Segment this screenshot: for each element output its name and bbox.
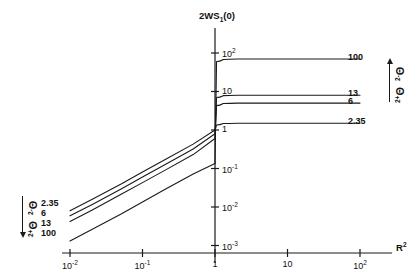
x-tick-label: 1 xyxy=(212,260,217,269)
annotation-left-arrow xyxy=(22,196,23,236)
annotation-right-arrow xyxy=(389,62,390,102)
curve-start-label-6: 6 xyxy=(41,209,46,218)
annotation-left-symbol-bottom: 2+Θ xyxy=(28,221,39,237)
curve-start-label-13: 13 xyxy=(41,219,51,228)
y-tick-label: 102 xyxy=(222,48,236,59)
figure-root: 10-210-111010210210110-110-210-32WS1(0)R… xyxy=(0,0,411,280)
curve-start-label-100: 100 xyxy=(41,229,56,238)
x-tick-label: 10-2 xyxy=(62,260,78,271)
curve-end-label-6: 6 xyxy=(348,97,353,106)
x-tick-label: 102 xyxy=(353,260,367,271)
curve-right-100 xyxy=(215,59,360,164)
annotation-left-arrowhead xyxy=(20,232,26,238)
curve-right-2.35 xyxy=(215,123,360,130)
curve-left-100 xyxy=(70,163,215,241)
curve-left-13 xyxy=(70,139,215,222)
annotation-right-arrowhead xyxy=(387,58,393,64)
y-tick-label: 10-2 xyxy=(222,202,238,213)
curve-right-13 xyxy=(215,95,360,138)
y-tick-label: 10 xyxy=(222,87,232,96)
annotation-right-symbol-top: 2-Θ xyxy=(395,67,406,81)
x-tick-label: 10-1 xyxy=(135,260,151,271)
x-axis-title: R2 xyxy=(396,242,407,253)
y-tick-label: 10-1 xyxy=(222,164,238,175)
curve-right-6 xyxy=(215,103,360,134)
curve-left-6 xyxy=(70,134,215,216)
plot-svg xyxy=(0,0,411,280)
y-axis-title: 2WS1(0) xyxy=(199,11,235,23)
curve-end-label-2.35: 2.35 xyxy=(348,117,366,126)
curve-end-label-100: 100 xyxy=(348,53,363,62)
curve-left-2.35 xyxy=(70,130,215,211)
y-tick-label: 10-3 xyxy=(222,241,238,252)
annotation-left-symbol-top: 2-Θ xyxy=(28,201,39,215)
annotation-right-symbol-bottom: 2+Θ xyxy=(395,87,406,103)
y-tick-label: 1 xyxy=(222,125,227,134)
curve-start-label-2.35: 2.35 xyxy=(41,199,59,208)
x-tick-label: 10 xyxy=(282,260,292,269)
